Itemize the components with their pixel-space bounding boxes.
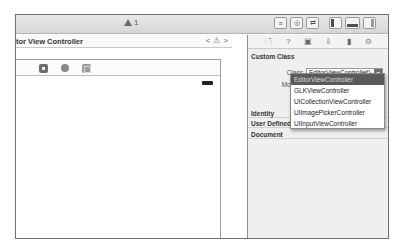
- battery-icon: [202, 81, 213, 85]
- jump-forward-button[interactable]: >: [223, 36, 228, 45]
- first-responder-icon[interactable]: [61, 64, 69, 72]
- custom-class-title: Custom Class: [251, 53, 294, 60]
- document-section[interactable]: Document: [248, 130, 389, 139]
- assistant-editor-icon[interactable]: ◎: [290, 17, 303, 29]
- inspector-tabs: 🗋 ? ▣ ⇩ ▮ ⊖: [248, 35, 389, 49]
- utilities-inspector: 🗋 ? ▣ ⇩ ▮ ⊖ Custom Class Class EditorVie…: [247, 35, 388, 239]
- view-toggle-group: [329, 17, 376, 29]
- debug-area-icon[interactable]: [345, 17, 360, 29]
- standard-editor-icon[interactable]: ≡: [274, 17, 287, 29]
- navigator-pane-icon[interactable]: [329, 17, 342, 29]
- dropdown-item-glk-view-controller[interactable]: GLKViewController: [291, 85, 384, 96]
- warning-count: 1: [134, 18, 138, 27]
- size-inspector-icon[interactable]: ▮: [344, 37, 354, 46]
- scene-dock: [16, 60, 220, 76]
- warning-icon: [124, 19, 132, 26]
- jump-nav: < ⚠ >: [206, 36, 228, 45]
- dropdown-item-editor-view-controller[interactable]: EditorViewController: [291, 74, 384, 85]
- file-inspector-icon[interactable]: 🗋: [263, 35, 273, 49]
- connections-inspector-icon[interactable]: ⊖: [364, 37, 374, 46]
- class-dropdown-menu: EditorViewController GLKViewController U…: [290, 73, 385, 129]
- dropdown-item-ui-collection-view-controller[interactable]: UICollectionViewController: [291, 96, 384, 107]
- dropdown-item-ui-image-picker-controller[interactable]: UIImagePickerController: [291, 107, 384, 118]
- toolbar: 1 ≡ ◎ ⇄: [16, 15, 388, 34]
- storyboard-canvas[interactable]: [16, 49, 232, 239]
- identity-inspector-icon[interactable]: ▣: [303, 37, 313, 46]
- jump-back-button[interactable]: <: [206, 36, 211, 45]
- attributes-inspector-icon[interactable]: ⇩: [324, 37, 334, 46]
- issue-warning-icon[interactable]: ⚠: [213, 36, 220, 45]
- view-controller-scene[interactable]: [16, 59, 221, 239]
- version-editor-icon[interactable]: ⇄: [306, 17, 319, 29]
- utilities-pane-icon[interactable]: [363, 17, 376, 29]
- dropdown-item-ui-input-view-controller[interactable]: UIInputViewController: [291, 118, 384, 129]
- activity-warning[interactable]: 1: [124, 18, 138, 27]
- quick-help-icon[interactable]: ?: [283, 37, 293, 46]
- editor-jump-bar: tor View Controller < ⚠ >: [16, 35, 232, 48]
- view-controller-icon[interactable]: [39, 64, 48, 73]
- editor-mode-group: ≡ ◎ ⇄: [274, 17, 319, 29]
- editor-title: tor View Controller: [16, 37, 83, 46]
- exit-icon[interactable]: [82, 64, 91, 73]
